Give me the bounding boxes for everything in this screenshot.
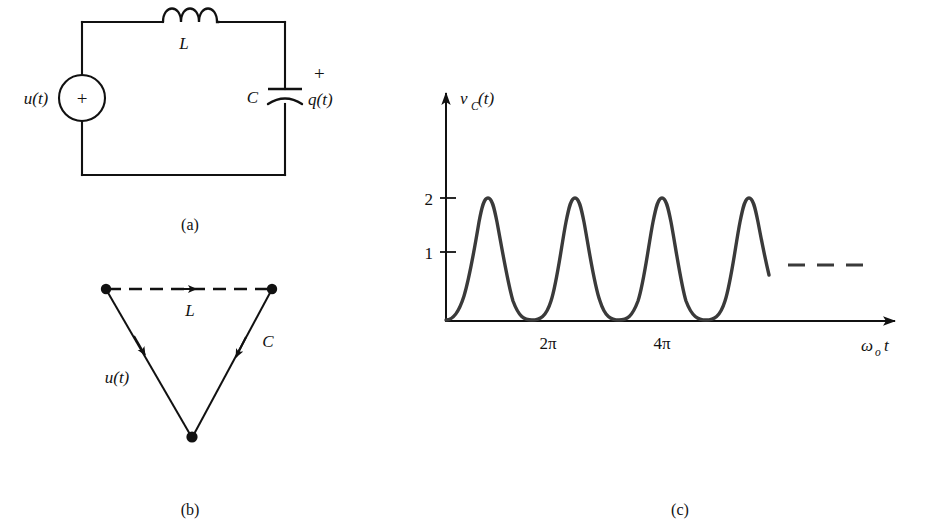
panel-plot: v C (t) ω o t 2 1 2π 4π (c): [425, 89, 896, 519]
graph-label-C: C: [262, 332, 274, 351]
graph-edge-C-arrow: [236, 337, 246, 357]
voltage-source-symbol: +: [59, 75, 105, 121]
caption-b: (b): [181, 501, 200, 519]
panel-graph: L u(t) C (b): [101, 284, 277, 519]
plot-ylabel-v: v: [460, 89, 468, 108]
capacitor-symbol: [268, 89, 302, 104]
plot-xtick-label-4pi: 4π: [653, 334, 671, 353]
graph-node-left: [101, 284, 111, 294]
plot-ytick-label-2: 2: [425, 190, 434, 209]
graph-label-u: u(t): [105, 368, 130, 387]
figure-svg: L + u(t) C + q(t) (a): [0, 0, 945, 525]
graph-edge-u: [107, 291, 191, 436]
plot-y-axis-label: v C (t): [460, 89, 494, 112]
plot-curve-vc: [446, 198, 769, 320]
inductor-label: L: [178, 34, 188, 53]
caption-c: (c): [671, 501, 689, 519]
plot-x-axis-label: ω o t: [861, 336, 890, 358]
caption-a: (a): [181, 216, 199, 234]
graph-node-bottom: [186, 431, 197, 442]
charge-label: q(t): [308, 90, 333, 109]
graph-node-right: [267, 284, 277, 294]
plot-ytick-label-1: 1: [425, 244, 434, 263]
source-label: u(t): [24, 89, 49, 108]
capacitor-label: C: [247, 88, 259, 107]
inductor-symbol: [163, 9, 219, 23]
graph-edge-u-arrow: [134, 336, 145, 355]
plot-xlabel-omega: ω: [861, 336, 873, 355]
plot-xlabel-sub-o: o: [875, 346, 881, 358]
graph-label-L: L: [184, 301, 194, 320]
plot-xtick-label-2pi: 2π: [539, 334, 557, 353]
graph-edge-C: [193, 291, 271, 436]
figure-root: L + u(t) C + q(t) (a): [0, 0, 945, 525]
plot-ylabel-arg: (t): [478, 89, 494, 108]
panel-circuit: L + u(t) C + q(t) (a): [24, 9, 333, 235]
source-polarity-plus: +: [77, 88, 88, 109]
charge-polarity-plus: +: [314, 63, 325, 84]
plot-xlabel-arg-t: t: [884, 336, 890, 355]
